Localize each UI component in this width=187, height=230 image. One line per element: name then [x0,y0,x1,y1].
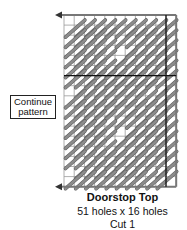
pattern-title: Doorstop Top [60,191,185,203]
arrow-left-icon [55,183,62,190]
arrow-left-icon [55,12,62,19]
pattern-dimensions: 51 holes x 16 holes [60,205,185,217]
note-text: Continue pattern [11,97,55,118]
pattern-cut-count: Cut 1 [60,218,185,230]
continue-pattern-note: Continue pattern [10,95,56,119]
